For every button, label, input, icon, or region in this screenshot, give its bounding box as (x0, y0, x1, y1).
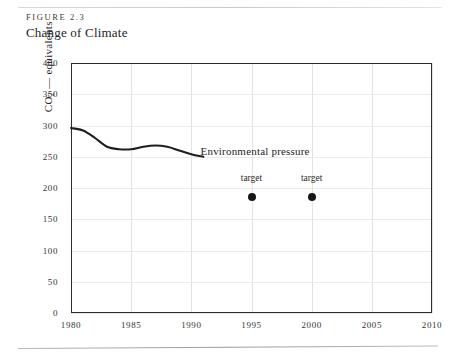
target-label: target (301, 173, 322, 183)
plot-area: Environmental pressuretargettarget (71, 63, 432, 313)
x-axis-tick-label: 2000 (301, 320, 321, 330)
x-axis-tick-label: 1985 (121, 320, 141, 330)
target-dot (248, 193, 256, 201)
target-label: target (241, 173, 262, 183)
environmental-pressure-line (71, 63, 432, 313)
y-axis-tick-label: 200 (43, 183, 58, 193)
bottom-rule (18, 345, 438, 349)
y-axis-tick-label: 350 (43, 89, 58, 99)
y-axis-tick-label: 400 (43, 58, 58, 68)
series-label: Environmental pressure (201, 145, 310, 157)
y-axis-tick-label: 300 (43, 121, 58, 131)
figure-number: FIGURE 2.3 (26, 12, 85, 22)
y-axis-tick-label: 100 (43, 246, 58, 256)
figure-title: Change of Climate (26, 25, 128, 41)
y-axis-tick-label: 0 (53, 308, 58, 318)
y-axis-tick-label: 250 (43, 152, 58, 162)
x-axis-tick-label: 1990 (181, 320, 201, 330)
x-axis-tick-label: 2005 (362, 320, 382, 330)
gridline-horizontal (71, 313, 432, 314)
environmental-pressure-curve (71, 128, 203, 157)
x-axis-tick-label: 2010 (422, 320, 442, 330)
y-axis-tick-labels: 050100150200250300350400 (0, 63, 66, 313)
top-rule (18, 7, 442, 8)
gridline-vertical (432, 63, 433, 313)
x-axis-tick-label: 1980 (61, 320, 81, 330)
target-dot (308, 193, 316, 201)
y-axis-tick-label: 150 (43, 214, 58, 224)
figure-page: FIGURE 2.3 Change of Climate CO2 — equiv… (0, 0, 455, 364)
x-axis-tick-label: 1995 (241, 320, 261, 330)
y-axis-tick-label: 50 (48, 277, 58, 287)
